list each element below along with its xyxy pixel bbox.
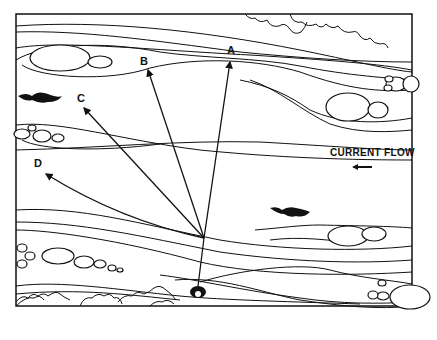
- rocks: [14, 45, 430, 309]
- fish-icon: [270, 207, 310, 216]
- stream-diagram: [0, 0, 437, 340]
- bank-vegetation-top: [245, 14, 388, 48]
- point-label-d: D: [34, 157, 42, 169]
- point-label-a: A: [227, 44, 235, 56]
- point-label-c: C: [77, 92, 85, 104]
- point-label-b: B: [140, 55, 148, 67]
- cast-lines: [46, 62, 230, 286]
- fish-icon: [18, 92, 62, 102]
- bank-vegetation-bottom: [16, 286, 176, 306]
- current-flow-arrow-icon: [352, 164, 372, 170]
- angler-icon: [190, 286, 206, 298]
- current-flow-label: CURRENT FLOW: [330, 147, 415, 158]
